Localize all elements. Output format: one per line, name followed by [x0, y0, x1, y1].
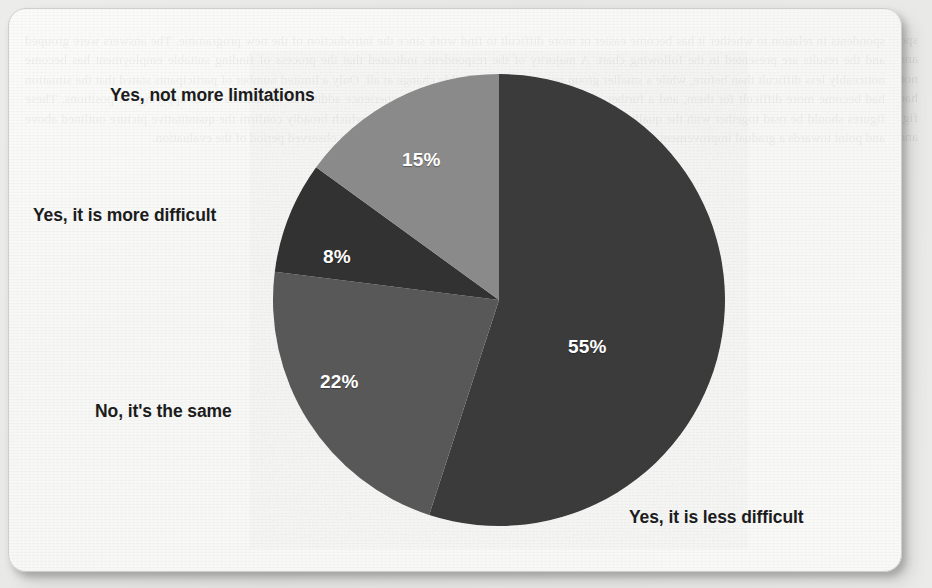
page-root: spondents in relation to whether it has … — [0, 0, 932, 588]
value-label-yes-more-difficult: 8% — [323, 246, 351, 268]
category-label-yes-more-difficult: Yes, it is more difficult — [33, 205, 216, 226]
value-label-yes-not-more-limitations: 15% — [402, 149, 441, 171]
value-label-yes-less-difficult: 55% — [568, 336, 607, 358]
pie-slices — [273, 74, 725, 526]
chart-card: spondents in relation to whether it has … — [8, 8, 902, 572]
category-label-no-the-same: No, it's the same — [95, 401, 232, 422]
category-label-yes-less-difficult: Yes, it is less difficult — [629, 507, 804, 528]
category-label-yes-not-more-limitations: Yes, not more limitations — [110, 85, 315, 106]
pie-chart: 55% 22% 8% 15% Yes, it is less difficult… — [9, 9, 901, 571]
value-label-no-the-same: 22% — [320, 371, 359, 393]
